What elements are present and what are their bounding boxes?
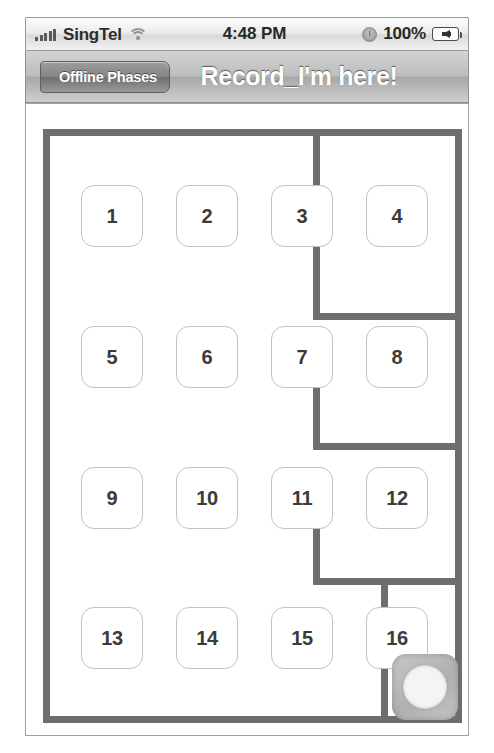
maze-tile-8[interactable]: 8 <box>366 326 428 388</box>
battery-percent-label: 100% <box>383 24 426 44</box>
maze-wall-outer-left <box>43 129 50 723</box>
carrier-label: SingTel <box>63 26 122 43</box>
maze-wall-horizontal-row1-right <box>313 313 462 320</box>
maze-tile-1[interactable]: 1 <box>81 185 143 247</box>
maze-tile-label: 13 <box>101 627 123 650</box>
lock-rotation-icon <box>362 27 377 42</box>
maze-tile-label: 7 <box>297 346 308 369</box>
maze-tile-label: 15 <box>291 627 313 650</box>
player-token-circle-icon <box>403 665 447 709</box>
maze-tile-2[interactable]: 2 <box>176 185 238 247</box>
maze-wall-outer-top <box>43 129 462 136</box>
maze-tile-4[interactable]: 4 <box>366 185 428 247</box>
maze-tile-label: 11 <box>292 487 313 510</box>
maze-tile-12[interactable]: 12 <box>366 467 428 529</box>
phone-screen: SingTel 4:48 PM 100% Offline Phases Reco… <box>0 0 494 753</box>
maze-tile-9[interactable]: 9 <box>81 467 143 529</box>
maze-tile-13[interactable]: 13 <box>81 607 143 669</box>
maze-tile-label: 14 <box>196 627 218 650</box>
wifi-icon <box>129 27 147 41</box>
back-button[interactable]: Offline Phases <box>40 61 170 93</box>
signal-bars-icon <box>35 28 56 41</box>
maze-tile-3[interactable]: 3 <box>271 185 333 247</box>
maze-tile-6[interactable]: 6 <box>176 326 238 388</box>
maze-tile-label: 1 <box>107 205 118 228</box>
maze-tile-14[interactable]: 14 <box>176 607 238 669</box>
clock-label: 4:48 PM <box>223 24 287 44</box>
maze-tile-label: 6 <box>202 346 213 369</box>
page-title: Record_I'm here! <box>170 62 468 91</box>
player-token[interactable] <box>392 654 458 720</box>
maze-tile-label: 12 <box>386 487 408 510</box>
status-bar-right: 100% <box>362 24 468 44</box>
maze-tile-label: 2 <box>202 205 213 228</box>
maze-tile-label: 10 <box>196 487 218 510</box>
maze-tile-label: 8 <box>392 346 403 369</box>
maze-board: 12345678910111213141516 <box>25 103 469 736</box>
maze-wall-outer-right <box>455 129 462 723</box>
status-bar-left: SingTel <box>26 26 147 43</box>
maze-tile-5[interactable]: 5 <box>81 326 143 388</box>
maze-canvas: 12345678910111213141516 <box>43 129 462 723</box>
maze-tile-15[interactable]: 15 <box>271 607 333 669</box>
status-bar-center: 4:48 PM <box>147 24 363 44</box>
status-bar: SingTel 4:48 PM 100% <box>25 17 469 51</box>
battery-charging-icon <box>432 27 459 41</box>
maze-tile-11[interactable]: 11 <box>271 467 333 529</box>
maze-tile-label: 3 <box>297 205 308 228</box>
maze-tile-label: 5 <box>107 346 118 369</box>
maze-tile-7[interactable]: 7 <box>271 326 333 388</box>
maze-wall-horizontal-row2-right <box>313 443 462 450</box>
maze-tile-10[interactable]: 10 <box>176 467 238 529</box>
maze-tile-label: 16 <box>386 627 408 650</box>
navigation-bar: Offline Phases Record_I'm here! <box>25 51 469 103</box>
maze-tile-label: 9 <box>107 487 118 510</box>
maze-wall-vertical-col3-mid <box>313 379 320 448</box>
back-button-label: Offline Phases <box>59 69 157 85</box>
maze-tile-label: 4 <box>392 205 403 228</box>
